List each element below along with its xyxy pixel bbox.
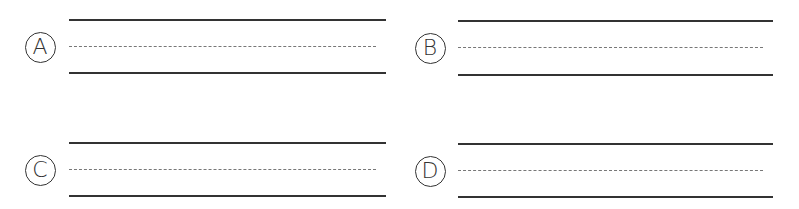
writing-line-middle-dashed xyxy=(458,170,763,171)
option-label-circle: C xyxy=(25,155,56,186)
writing-line-top xyxy=(69,142,386,144)
option-label-circle: D xyxy=(415,156,446,187)
option-label-circle: A xyxy=(25,32,56,63)
writing-line-middle-dashed xyxy=(69,169,376,170)
writing-line-bottom xyxy=(458,74,773,76)
writing-line-bottom xyxy=(69,195,386,197)
option-label-circle: B xyxy=(415,33,446,64)
writing-line-bottom xyxy=(458,196,773,198)
writing-line-top xyxy=(458,20,773,22)
writing-line-middle-dashed xyxy=(458,47,763,48)
writing-line-top xyxy=(458,143,773,145)
writing-line-middle-dashed xyxy=(69,46,376,47)
writing-line-bottom xyxy=(69,72,386,74)
writing-line-top xyxy=(69,19,386,21)
